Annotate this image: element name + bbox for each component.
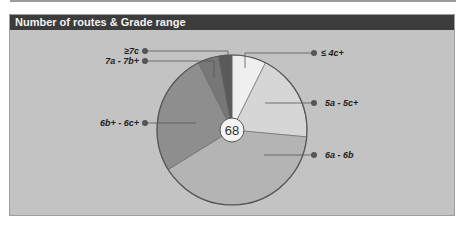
label-7a-7b: 7a - 7b+: [105, 56, 140, 66]
label-le-4c: ≤ 4c+: [321, 48, 344, 58]
legend-dot: [311, 100, 317, 106]
label-5a-5c: 5a - 5c+: [325, 98, 359, 108]
legend-dot: [142, 58, 148, 64]
pie-chart: ≤ 4c+ 5a - 5c+ 6a - 6b 6b+ - 6c+ 7a - 7b…: [0, 0, 464, 226]
legend-dot: [311, 152, 317, 158]
label-6b-6c: 6b+ - 6c+: [100, 118, 140, 128]
label-6a-6b: 6a - 6b: [325, 150, 354, 160]
legend-dot: [142, 120, 148, 126]
center-total: 68: [225, 123, 239, 138]
legend-dot: [142, 48, 148, 54]
label-ge-7c: ≥7c: [124, 46, 139, 56]
legend-dot: [311, 50, 317, 56]
